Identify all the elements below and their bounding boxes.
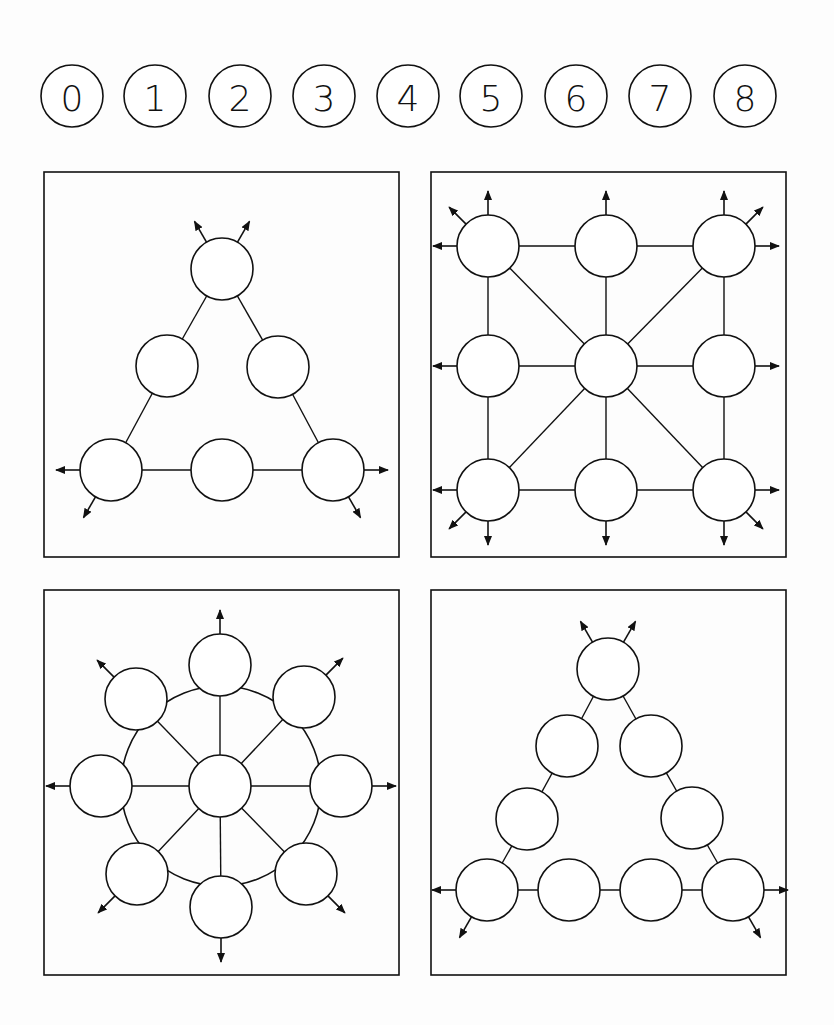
empty-slot[interactable] <box>275 843 337 905</box>
arrow-icon <box>449 512 466 529</box>
digit-label: 7 <box>649 78 672 119</box>
empty-slot[interactable] <box>577 638 639 700</box>
empty-slot[interactable] <box>136 335 198 397</box>
puzzle-panels <box>44 172 788 975</box>
puzzle-canvas: 012345678 <box>0 0 834 1025</box>
empty-slot[interactable] <box>70 755 132 817</box>
digit-tile-6[interactable]: 6 <box>545 65 607 127</box>
empty-slot[interactable] <box>693 459 755 521</box>
empty-slot[interactable] <box>536 715 598 777</box>
digit-tiles: 012345678 <box>41 65 776 127</box>
digit-label: 1 <box>144 78 167 119</box>
empty-slot[interactable] <box>273 666 335 728</box>
digit-label: 0 <box>61 78 84 119</box>
digit-tile-5[interactable]: 5 <box>460 65 522 127</box>
empty-slot[interactable] <box>575 459 637 521</box>
arrow-icon <box>746 207 763 224</box>
arrow-icon <box>328 896 345 913</box>
arrow-icon <box>195 221 207 242</box>
arrow-icon <box>624 621 636 642</box>
digit-label: 8 <box>734 78 757 119</box>
digit-label: 6 <box>565 78 588 119</box>
panel-wheel-9 <box>44 590 399 975</box>
arrow-icon <box>746 512 763 529</box>
empty-slot[interactable] <box>105 668 167 730</box>
panel-triangle-9 <box>431 590 788 975</box>
empty-slot[interactable] <box>620 859 682 921</box>
arrow-icon <box>460 917 472 938</box>
digit-tile-8[interactable]: 8 <box>714 65 776 127</box>
empty-slot[interactable] <box>310 755 372 817</box>
empty-slot[interactable] <box>620 715 682 777</box>
digit-tile-2[interactable]: 2 <box>209 65 271 127</box>
digit-label: 3 <box>313 78 336 119</box>
empty-slot[interactable] <box>661 787 723 849</box>
empty-slot[interactable] <box>189 755 251 817</box>
empty-slot[interactable] <box>575 335 637 397</box>
arrow-icon <box>97 660 114 677</box>
empty-slot[interactable] <box>80 439 142 501</box>
empty-slot[interactable] <box>189 634 251 696</box>
digit-tile-7[interactable]: 7 <box>629 65 691 127</box>
empty-slot[interactable] <box>457 215 519 277</box>
empty-slot[interactable] <box>190 876 252 938</box>
empty-slot[interactable] <box>302 439 364 501</box>
empty-slot[interactable] <box>457 335 519 397</box>
arrow-icon <box>581 621 593 642</box>
empty-slot[interactable] <box>496 788 558 850</box>
empty-slot[interactable] <box>247 336 309 398</box>
arrow-icon <box>98 896 115 913</box>
digit-tile-3[interactable]: 3 <box>293 65 355 127</box>
arrow-icon <box>449 207 466 224</box>
arrow-icon <box>349 497 361 518</box>
empty-slot[interactable] <box>191 439 253 501</box>
digit-tile-4[interactable]: 4 <box>377 65 439 127</box>
empty-slot[interactable] <box>456 859 518 921</box>
empty-slot[interactable] <box>538 859 600 921</box>
empty-slot[interactable] <box>106 843 168 905</box>
empty-slot[interactable] <box>191 238 253 300</box>
digit-label: 4 <box>397 78 420 119</box>
empty-slot[interactable] <box>693 215 755 277</box>
digit-label: 5 <box>480 78 503 119</box>
panel-triangle-6 <box>44 172 399 557</box>
digit-tile-0[interactable]: 0 <box>41 65 103 127</box>
digit-tile-1[interactable]: 1 <box>124 65 186 127</box>
digit-label: 2 <box>229 78 252 119</box>
arrow-icon <box>84 497 96 518</box>
empty-slot[interactable] <box>693 335 755 397</box>
arrow-icon <box>238 221 250 242</box>
empty-slot[interactable] <box>457 459 519 521</box>
panel-grid-9 <box>431 172 786 557</box>
arrow-icon <box>326 658 343 675</box>
arrow-icon <box>749 917 761 938</box>
empty-slot[interactable] <box>702 859 764 921</box>
empty-slot[interactable] <box>575 215 637 277</box>
